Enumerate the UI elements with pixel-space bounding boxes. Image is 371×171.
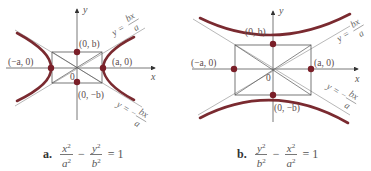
co-vertex-bottom xyxy=(74,79,80,85)
y-axis-label: y xyxy=(278,5,284,16)
hyperbola-right-branch xyxy=(103,37,134,100)
caption-tag: a. xyxy=(43,147,52,162)
hyperbola-upper-branch xyxy=(200,14,350,35)
label-co-vertex-right: (a, 0) xyxy=(314,58,334,69)
origin-label: 0 xyxy=(266,73,271,83)
vertex-right xyxy=(100,65,106,71)
hyperbola-left-branch xyxy=(17,33,51,101)
x-axis-label: x xyxy=(150,71,156,82)
caption-tag: b. xyxy=(237,147,247,162)
svg-text:y =: y = xyxy=(334,28,351,44)
origin-label: 0 xyxy=(70,72,75,82)
svg-text:y = −: y = − xyxy=(114,99,139,119)
fraction-term-2: x2 a2 xyxy=(284,140,297,169)
fraction-term-2: y2 b2 xyxy=(90,140,103,169)
svg-text:y = −: y = − xyxy=(324,81,349,101)
svg-text:a: a xyxy=(343,100,352,111)
equals-rhs: = 1 xyxy=(108,147,124,162)
label-vertex-top: (0, b) xyxy=(245,27,266,38)
label-co-vertex-bottom: (0, −b) xyxy=(78,90,104,101)
label-vertex-left: (−a, 0) xyxy=(8,57,33,68)
panel-a-graph: y x 0 (0, b) (0, −b) (−a, 0) (a, 0) y = … xyxy=(6,4,156,131)
caption-a: a. x2 a2 − y2 b2 = 1 xyxy=(43,140,126,169)
equals-rhs: = 1 xyxy=(302,147,318,162)
label-co-vertex-left: (−a, 0) xyxy=(191,58,216,69)
panel-b-graph: y x 0 (0, b) (0, −b) (−a, 0) (a, 0) y = … xyxy=(191,5,369,123)
svg-text:y =: y = xyxy=(109,22,126,38)
co-vertex-left xyxy=(231,66,237,72)
label-vertex-bottom: (0, −b) xyxy=(274,103,300,114)
co-vertex-top xyxy=(74,49,80,55)
caption-b: b. y2 b2 − x2 a2 = 1 xyxy=(237,140,320,169)
x-axis-label: x xyxy=(354,73,360,84)
y-axis-label: y xyxy=(82,4,88,15)
vertex-top xyxy=(270,41,276,47)
label-vertex-right: (a, 0) xyxy=(112,57,132,68)
vertex-left xyxy=(48,65,54,71)
asymptote-label-upper: y = bx a xyxy=(106,9,144,44)
fraction-term-1: x2 a2 xyxy=(60,140,73,169)
vertex-bottom xyxy=(270,92,276,98)
minus-operator: − xyxy=(273,147,280,162)
minus-operator: − xyxy=(78,147,85,162)
svg-text:a: a xyxy=(133,118,142,129)
label-co-vertex-top: (0, b) xyxy=(79,39,100,50)
fraction-term-1: y2 b2 xyxy=(255,140,268,169)
svg-text:a: a xyxy=(356,28,365,39)
